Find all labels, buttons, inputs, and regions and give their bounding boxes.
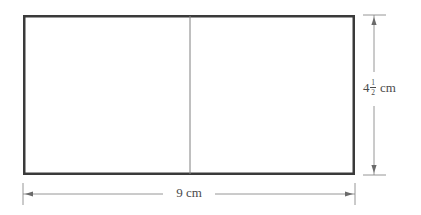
width-label-text: 9 cm <box>169 186 209 199</box>
height-arrowhead-bottom <box>371 165 376 173</box>
mixed-number-four-and-a-half: 4 1 2 <box>363 79 376 96</box>
width-dimension-label: 9 cm <box>0 186 378 199</box>
fraction-one-half: 1 2 <box>370 79 376 96</box>
whole-number-part: 4 <box>363 81 370 94</box>
height-dimension-label: 4 1 2 cm <box>363 79 396 96</box>
height-unit-label: cm <box>380 81 396 94</box>
height-arrowhead-top <box>371 17 376 25</box>
geometry-figure-canvas: 4 1 2 cm 9 cm <box>0 0 421 215</box>
fraction-numerator: 1 <box>370 79 376 87</box>
rectangle-outline <box>24 16 354 174</box>
fraction-denominator: 2 <box>370 88 376 96</box>
rectangle-diagram-svg <box>0 0 421 215</box>
